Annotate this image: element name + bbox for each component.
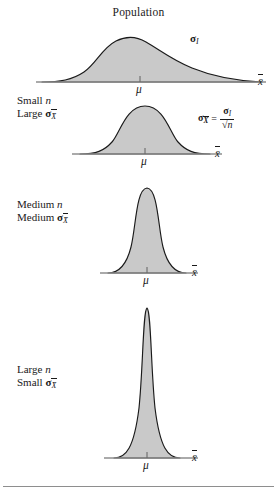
panel-medium-n: Medium n Medium σX̄ x̄ μ xyxy=(0,175,277,285)
label-line-sigma: Large σX̄ xyxy=(17,107,56,123)
axis-label-xbar: x̄ xyxy=(192,451,197,463)
panel-large-n: Large n Small σX̄ x̄ μ xyxy=(0,298,277,478)
bottom-divider xyxy=(3,486,274,487)
population-curve xyxy=(0,20,277,88)
axis-label-xbar: x̄ xyxy=(258,75,263,87)
population-sigma-annotation: σI xyxy=(190,32,199,46)
formula-lhs: σX̄ xyxy=(198,112,208,125)
panel-small-n: Small n Large σX̄ x̄ μ σX̄ = σI √n xyxy=(0,92,277,167)
page-title: Population xyxy=(0,6,277,18)
panel-label-medium-n: Medium n Medium σX̄ xyxy=(17,198,68,227)
label-line-n: Small n xyxy=(17,94,56,107)
standard-error-formula: σX̄ = σI √n xyxy=(198,106,234,131)
axis-label-xbar: x̄ xyxy=(215,147,220,159)
label-line-n: Large n xyxy=(17,363,56,376)
medium-n-curve xyxy=(0,175,277,285)
panel-population: σI x̄ μ xyxy=(0,20,277,88)
label-line-sigma: Medium σX̄ xyxy=(17,211,68,227)
panel-label-large-n: Large n Small σX̄ xyxy=(17,363,56,392)
mean-label-mu: μ xyxy=(141,155,147,167)
mean-label-mu: μ xyxy=(143,274,149,286)
formula-fraction: σI √n xyxy=(220,106,235,131)
axis-label-xbar: x̄ xyxy=(192,266,197,278)
label-line-n: Medium n xyxy=(17,198,68,211)
mean-label-mu: μ xyxy=(143,459,149,471)
formula-numerator: σI xyxy=(221,106,233,119)
label-line-sigma: Small σX̄ xyxy=(17,376,56,392)
formula-denominator: √n xyxy=(220,120,235,131)
sampling-distribution-figure: Population σI x̄ μ Small n Large σX̄ xyxy=(0,0,277,494)
formula-equals: = xyxy=(211,113,217,124)
panel-label-small-n: Small n Large σX̄ xyxy=(17,94,56,123)
sigma-subscript: I xyxy=(196,37,199,46)
